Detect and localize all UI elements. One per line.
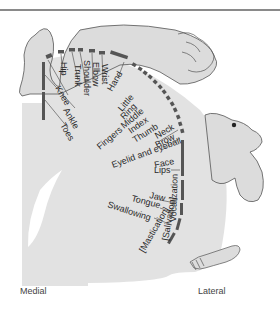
homunculus-diagram: Hip Trunk Shoulder Elbow Wrist Hand Knee… — [0, 0, 280, 313]
lateral-label: Lateral — [198, 286, 226, 296]
label-shoulder: Shoulder — [82, 60, 92, 96]
label-elbow: Elbow — [91, 62, 101, 87]
label-hip: Hip — [59, 62, 69, 76]
label-trunk: Trunk — [73, 64, 83, 87]
label-vocalization: Vocalization — [168, 174, 180, 222]
homunculus-figure: Hip Trunk Shoulder Elbow Wrist Hand Knee… — [0, 0, 280, 313]
medial-label: Medial — [20, 286, 47, 296]
eye — [232, 123, 236, 127]
label-lips: Lips — [154, 165, 171, 175]
